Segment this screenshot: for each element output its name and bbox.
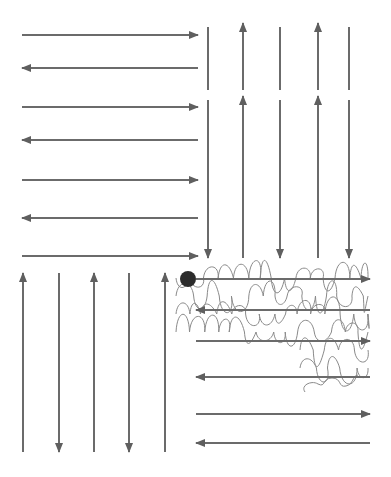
quilting-diagram [0, 0, 391, 477]
start-dot-circle [180, 271, 196, 287]
arrow-blocks [22, 23, 370, 452]
meander-fill [176, 260, 369, 392]
start-dot [180, 271, 196, 287]
